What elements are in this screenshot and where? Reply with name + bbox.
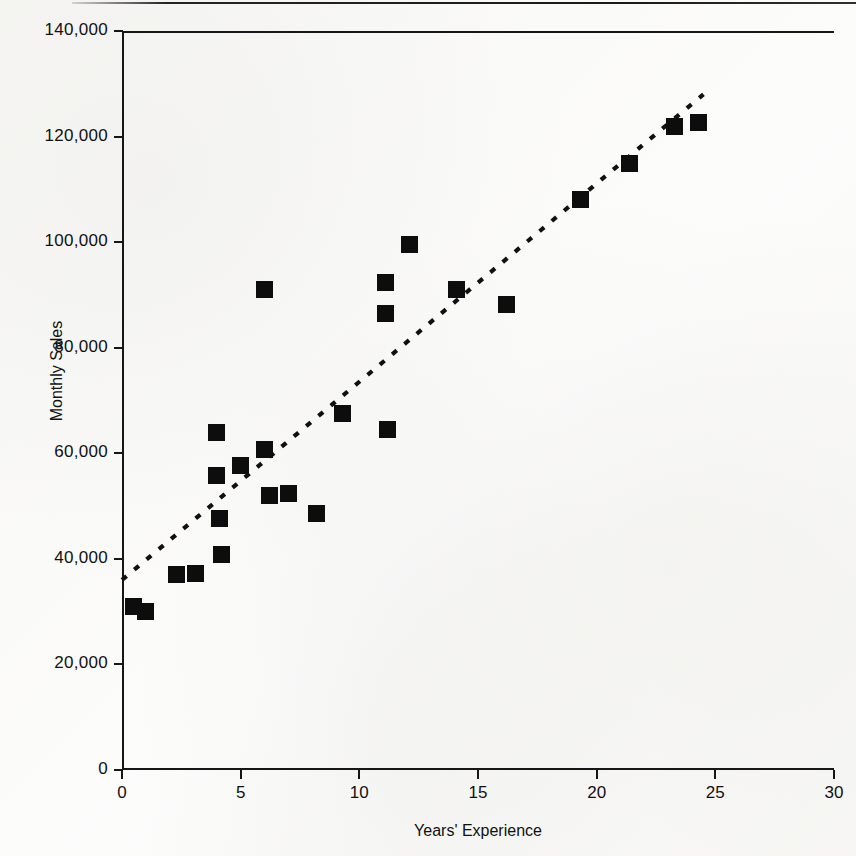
y-axis-tick <box>114 558 123 560</box>
scatter-point <box>666 118 683 135</box>
scatter-point <box>137 603 154 620</box>
y-axis-tick-label: 140,000 <box>12 20 108 40</box>
x-axis-tick <box>121 770 123 779</box>
y-axis-title: Monthly Sales <box>48 271 66 471</box>
x-axis-tick-label: 0 <box>87 783 157 803</box>
scatter-point <box>308 505 325 522</box>
scatter-point <box>379 421 396 438</box>
x-axis-tick-label: 25 <box>680 783 750 803</box>
scatter-point <box>572 191 589 208</box>
y-axis-tick-label: 20,000 <box>12 653 108 673</box>
scatter-point <box>261 487 278 504</box>
scatter-point <box>448 281 465 298</box>
y-axis-tick <box>114 663 123 665</box>
scatter-point <box>208 424 225 441</box>
scatter-point <box>232 457 249 474</box>
y-axis-tick <box>114 452 123 454</box>
scatter-point <box>334 405 351 422</box>
y-axis-tick <box>114 136 123 138</box>
scatter-point <box>187 565 204 582</box>
x-axis-tick <box>833 770 835 779</box>
scatter-point <box>256 441 273 458</box>
y-axis-tick <box>114 241 123 243</box>
x-axis-tick <box>596 770 598 779</box>
page-header-rule <box>72 2 856 4</box>
x-axis-tick-label: 5 <box>206 783 276 803</box>
x-axis-tick <box>477 770 479 779</box>
y-axis-tick-label: 0 <box>12 759 108 779</box>
x-axis-tick-label: 30 <box>799 783 856 803</box>
scatter-point <box>401 236 418 253</box>
y-axis-tick-label: 40,000 <box>12 548 108 568</box>
x-axis-tick <box>240 770 242 779</box>
x-axis-tick <box>358 770 360 779</box>
scatter-point <box>256 281 273 298</box>
y-axis-tick <box>114 30 123 32</box>
scatter-point <box>690 114 707 131</box>
scatter-point <box>168 566 185 583</box>
x-axis-tick-label: 20 <box>562 783 632 803</box>
x-axis-tick <box>714 770 716 779</box>
plot-area-frame <box>122 31 834 770</box>
x-axis-title: Years' Experience <box>122 822 834 840</box>
x-axis-tick-label: 15 <box>443 783 513 803</box>
x-axis-tick-label: 10 <box>324 783 394 803</box>
scatter-point <box>280 485 297 502</box>
scatter-point <box>377 305 394 322</box>
y-axis-tick <box>114 347 123 349</box>
y-axis-tick-label: 120,000 <box>12 126 108 146</box>
scatter-point <box>621 155 638 172</box>
scatter-point <box>498 296 515 313</box>
scatter-point <box>213 546 230 563</box>
scatter-point <box>377 274 394 291</box>
scatter-point <box>208 467 225 484</box>
y-axis-tick-label: 100,000 <box>12 231 108 251</box>
chart-page: 020,00040,00060,00080,000100,000120,0001… <box>0 0 856 856</box>
scatter-point <box>211 510 228 527</box>
